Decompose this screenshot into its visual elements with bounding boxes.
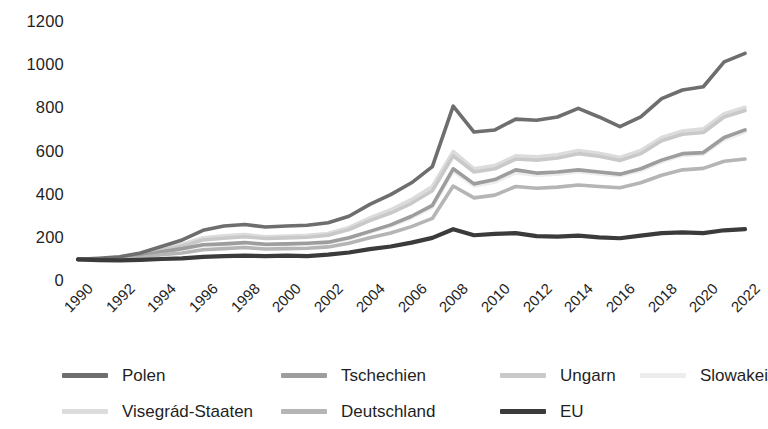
legend-item-polen[interactable]: Polen xyxy=(62,360,165,390)
legend-line-icon xyxy=(62,409,108,414)
legend-line-icon xyxy=(640,373,686,378)
legend-label: Visegrád-Staaten xyxy=(122,403,253,420)
legend-label: Polen xyxy=(122,367,165,384)
legend-line-icon xyxy=(500,409,546,414)
legend-label: Slowakei xyxy=(700,367,768,384)
legend-row-1: PolenTschechienUngarnSlowakei xyxy=(0,360,758,390)
legend-label: EU xyxy=(560,403,584,420)
line-chart-svg xyxy=(0,0,758,300)
x-axis: 1990199219941996199820002002200420062008… xyxy=(0,288,758,350)
y-axis-tick-label: 600 xyxy=(8,143,64,160)
legend-item-tschechien[interactable]: Tschechien xyxy=(281,360,426,390)
legend-line-icon xyxy=(62,373,108,378)
legend-line-icon xyxy=(281,409,327,414)
legend-item-eu[interactable]: EU xyxy=(500,396,584,426)
y-axis-tick-label: 0 xyxy=(8,272,64,289)
y-axis-tick-label: 800 xyxy=(8,99,64,116)
y-axis-tick-label: 200 xyxy=(8,229,64,246)
legend-row-2: Visegrád-StaatenDeutschlandEU xyxy=(0,396,758,426)
legend-item-deutschland[interactable]: Deutschland xyxy=(281,396,436,426)
legend-label: Deutschland xyxy=(341,403,436,420)
y-axis-tick-label: 1000 xyxy=(8,56,64,73)
legend-line-icon xyxy=(500,373,546,378)
chart-legend: PolenTschechienUngarnSlowakei Visegrád-S… xyxy=(0,360,758,429)
series-line-polen xyxy=(78,53,745,259)
legend-item-ungarn[interactable]: Ungarn xyxy=(500,360,616,390)
y-axis-tick-label: 400 xyxy=(8,186,64,203)
legend-line-icon xyxy=(281,373,327,378)
plot-area xyxy=(0,0,758,300)
legend-item-visegr-d-staaten[interactable]: Visegrád-Staaten xyxy=(62,396,253,426)
legend-label: Tschechien xyxy=(341,367,426,384)
y-axis-tick-label: 1200 xyxy=(8,13,64,30)
legend-label: Ungarn xyxy=(560,367,616,384)
legend-item-slowakei[interactable]: Slowakei xyxy=(640,360,768,390)
